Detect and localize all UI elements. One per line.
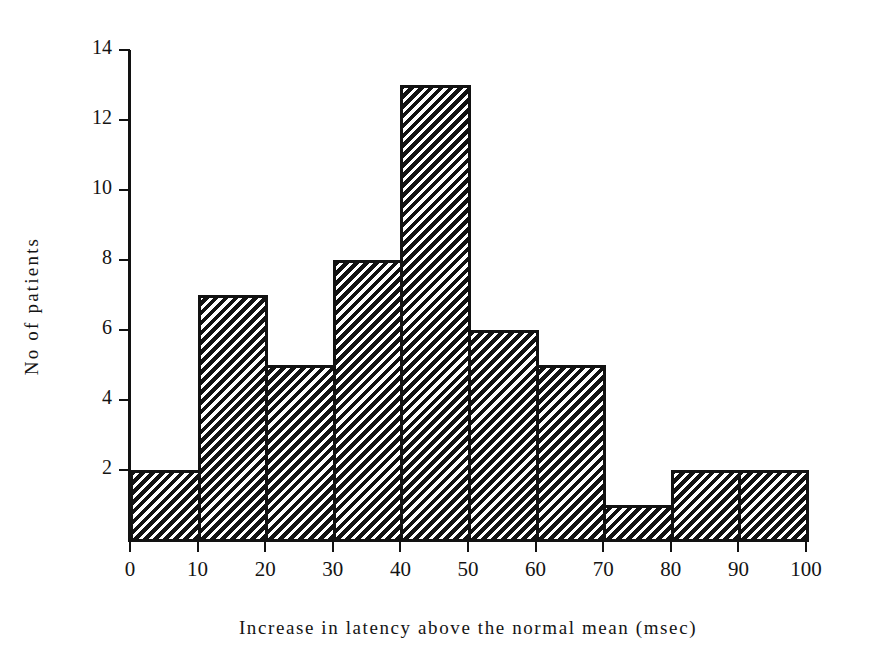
x-tick-mark [670,541,672,552]
y-tick-mark [119,189,130,191]
y-tick-mark [119,119,130,121]
histogram-bar[interactable] [738,470,809,542]
y-tick-mark [119,259,130,261]
histogram-figure: No of patients 2468101214 01020304050607… [0,0,872,671]
histogram-bar[interactable] [671,470,742,542]
histogram-bar[interactable] [468,330,539,542]
y-tick-label: 14 [72,36,112,59]
x-tick-mark [805,541,807,552]
histogram-bar[interactable] [265,365,336,542]
y-tick-label: 4 [72,386,112,409]
x-tick-label: 70 [573,557,633,582]
histogram-bar[interactable] [603,505,674,542]
x-tick-mark [332,541,334,552]
x-tick-label: 30 [303,557,363,582]
x-tick-mark [264,541,266,552]
y-tick-mark [119,329,130,331]
histogram-bar[interactable] [130,470,201,542]
y-tick-label: 10 [72,176,112,199]
x-tick-label: 50 [438,557,498,582]
x-tick-mark [197,541,199,552]
x-tick-mark [399,541,401,552]
y-tick-label: 12 [72,106,112,129]
y-tick-mark [119,469,130,471]
x-tick-mark [467,541,469,552]
x-tick-label: 20 [235,557,295,582]
histogram-bar[interactable] [333,260,404,542]
x-tick-label: 0 [100,557,160,582]
x-tick-mark [602,541,604,552]
x-tick-mark [129,541,131,552]
x-tick-label: 100 [776,557,836,582]
x-tick-label: 80 [641,557,701,582]
histogram-bar[interactable] [536,365,607,542]
x-tick-label: 90 [708,557,768,582]
x-tick-label: 60 [506,557,566,582]
x-tick-label: 40 [370,557,430,582]
histogram-bar[interactable] [198,295,269,542]
y-tick-label: 8 [72,246,112,269]
y-tick-label: 6 [72,316,112,339]
x-tick-label: 10 [168,557,228,582]
y-tick-mark [119,49,130,51]
x-tick-mark [737,541,739,552]
x-axis-label: Increase in latency above the normal mea… [130,617,806,639]
histogram-bar[interactable] [400,85,471,542]
x-tick-mark [535,541,537,552]
y-tick-mark [119,399,130,401]
y-tick-label: 2 [72,456,112,479]
y-axis-label: No of patients [21,216,43,396]
